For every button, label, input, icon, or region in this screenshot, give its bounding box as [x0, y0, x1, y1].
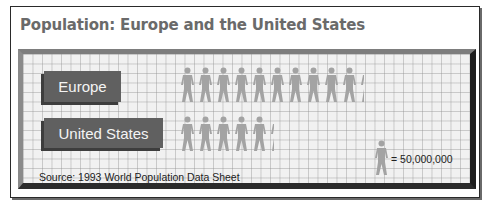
person-icon [251, 67, 268, 103]
legend-text: = 50,000,000 [391, 153, 453, 165]
person-icon [197, 67, 214, 103]
person-icon [323, 67, 340, 103]
person-icon [179, 116, 196, 152]
person-icon [287, 67, 304, 103]
person-icon [215, 116, 232, 152]
partial-person-icon [359, 67, 364, 103]
person-icon [373, 140, 390, 176]
person-icon [305, 67, 322, 103]
person-icon [197, 116, 214, 152]
chart-frame: Population: Europe and the United States… [10, 6, 480, 198]
person-icon [179, 67, 196, 103]
row-label-united-states: United States [44, 118, 163, 148]
person-icon [233, 67, 250, 103]
person-icon [269, 67, 286, 103]
europe-icon-row [179, 67, 364, 103]
pictograph-panel: Europe United States = 50,000,000 Source… [18, 49, 476, 189]
chart-title: Population: Europe and the United States [20, 16, 365, 34]
person-icon [215, 67, 232, 103]
partial-person-icon [269, 116, 274, 152]
us-icon-row [179, 116, 274, 152]
legend: = 50,000,000 [373, 140, 453, 176]
source-note: Source: 1993 World Population Data Sheet [39, 171, 240, 183]
row-label-europe: Europe [44, 71, 121, 102]
person-icon [341, 67, 358, 103]
person-icon [233, 116, 250, 152]
person-icon [251, 116, 268, 152]
